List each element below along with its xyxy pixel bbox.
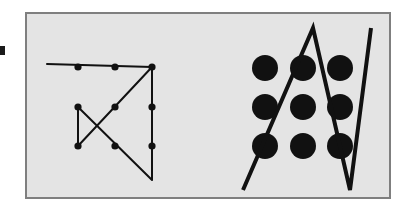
dot-L-r0c0 [74, 63, 81, 70]
dot-R-r1c1 [290, 94, 316, 120]
figure-root [0, 0, 407, 212]
dot-R-r0c2 [327, 55, 353, 81]
dot-L-r2c2 [148, 142, 155, 149]
dot-L-r1c2 [148, 103, 155, 110]
dot-L-r0c2 [148, 63, 155, 70]
dot-R-r2c1 [290, 133, 316, 159]
dot-L-r1c1 [111, 103, 118, 110]
edge-mark [0, 46, 5, 55]
nine-dots-puzzle-figure [0, 0, 407, 212]
dot-L-r2c1 [111, 142, 118, 149]
dot-L-r1c0 [74, 103, 81, 110]
dot-L-r2c0 [74, 142, 81, 149]
dot-L-r0c1 [111, 63, 118, 70]
dot-R-r0c0 [252, 55, 278, 81]
